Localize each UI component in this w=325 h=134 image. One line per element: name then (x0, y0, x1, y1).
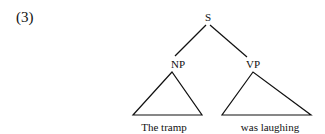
node-vp: VP (246, 58, 260, 70)
np-triangle (133, 72, 202, 115)
np-leaf-text: The tramp (141, 121, 187, 133)
vp-leaf-text: was laughing (241, 121, 300, 133)
vp-triangle (222, 72, 311, 115)
syntax-tree: S NP VP The tramp was laughing (0, 0, 325, 134)
edge-s-vp (210, 25, 247, 57)
node-s: S (205, 11, 211, 23)
node-np: NP (171, 58, 185, 70)
edge-s-np (175, 25, 206, 56)
